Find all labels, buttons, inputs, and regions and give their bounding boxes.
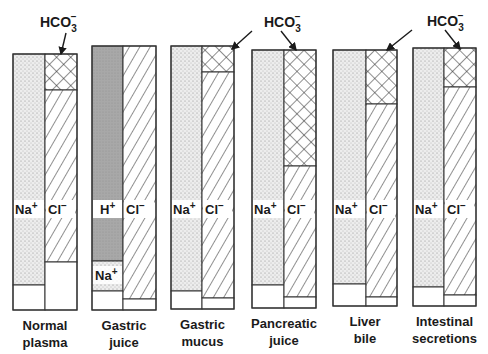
segment-hatch bbox=[123, 46, 156, 299]
segment-white bbox=[252, 285, 284, 308]
segment-white bbox=[413, 287, 444, 306]
segment-cross bbox=[444, 48, 476, 87]
column-normal-plasma: Na+Cl−Normalplasma bbox=[13, 54, 77, 350]
segment-hatch bbox=[284, 166, 316, 297]
segment-white bbox=[366, 297, 397, 306]
hco3-annotation: HCO3− bbox=[387, 10, 464, 50]
column-caption-line1: Gastric bbox=[102, 318, 147, 333]
segment-stipple bbox=[413, 48, 444, 287]
segment-white bbox=[123, 299, 156, 310]
segment-cross bbox=[284, 50, 316, 166]
segment-white bbox=[202, 298, 234, 309]
column-caption-line1: Pancreatic bbox=[251, 316, 317, 331]
hco3-annotation: HCO3− bbox=[40, 11, 77, 54]
column-pancreatic-juice: Na+Cl−Pancreaticjuice bbox=[251, 50, 317, 348]
column-liver-bile: Na+Cl−Liverbile bbox=[333, 50, 397, 346]
segment-white bbox=[45, 262, 77, 310]
segment-stipple bbox=[13, 54, 45, 285]
pointer-arrow bbox=[387, 30, 412, 50]
hco3-label: HCO3− bbox=[427, 10, 464, 33]
segment-stipple bbox=[333, 50, 366, 284]
segment-white bbox=[92, 291, 123, 310]
column-caption-line2: juice bbox=[268, 333, 299, 348]
segment-hatch bbox=[45, 90, 77, 262]
segment-white bbox=[333, 284, 366, 306]
hco3-label: HCO3− bbox=[264, 11, 301, 34]
column-gastric-mucus: Na+Cl−Gastricmucus bbox=[171, 46, 234, 349]
segment-white bbox=[444, 295, 476, 306]
column-caption-line1: Intestinal bbox=[416, 314, 473, 329]
segment-gray bbox=[92, 46, 123, 261]
fluid-composition-diagram: Na+Cl−NormalplasmaH+Cl−Na+GastricjuiceNa… bbox=[0, 0, 488, 354]
column-caption-line2: bile bbox=[354, 331, 376, 346]
hco3-annotation: HCO3− bbox=[232, 11, 301, 50]
column-caption-line2: mucus bbox=[182, 334, 224, 349]
column-caption-line2: plasma bbox=[23, 335, 69, 350]
segment-stipple bbox=[252, 50, 284, 285]
segment-white bbox=[171, 291, 202, 309]
segment-cross bbox=[202, 46, 234, 72]
segment-hatch bbox=[202, 72, 234, 298]
segment-white bbox=[13, 285, 45, 310]
pointer-arrow bbox=[232, 31, 252, 49]
columns-layer: Na+Cl−NormalplasmaH+Cl−Na+GastricjuiceNa… bbox=[13, 46, 477, 350]
column-gastric-juice: H+Cl−Na+Gastricjuice bbox=[92, 46, 156, 350]
pointer-arrow bbox=[281, 31, 296, 50]
column-caption-line2: juice bbox=[108, 335, 139, 350]
hco3-label: HCO3− bbox=[40, 11, 77, 34]
segment-cross bbox=[366, 50, 397, 104]
segment-stipple bbox=[171, 46, 202, 291]
column-intestinal-secretions: Na+Cl−Intestinalsecretions bbox=[412, 48, 477, 346]
column-caption-line1: Gastric bbox=[180, 317, 225, 332]
column-caption-line1: Normal bbox=[23, 318, 68, 333]
column-caption-line1: Liver bbox=[349, 314, 380, 329]
segment-cross bbox=[45, 54, 77, 90]
segment-white bbox=[284, 297, 316, 308]
pointer-arrow bbox=[61, 33, 66, 54]
column-caption-line2: secretions bbox=[412, 331, 477, 346]
segment-hatch bbox=[444, 87, 476, 295]
